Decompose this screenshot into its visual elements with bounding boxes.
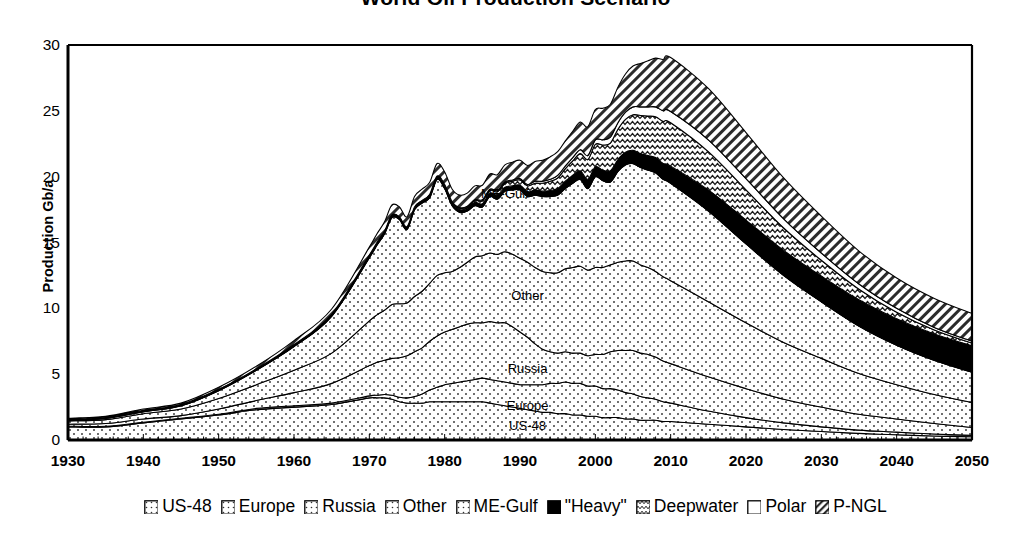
inline-label-europe: Europe: [507, 398, 549, 413]
legend-item-russia[interactable]: Russia: [304, 498, 376, 516]
legend-item-me-gulf[interactable]: ME-Gulf: [456, 498, 538, 516]
inline-label-me-gulf: ME-Gulf: [481, 186, 529, 201]
legend-swatch-white-icon: [747, 500, 761, 514]
legend-swatch-solid-black-icon: [547, 500, 561, 514]
x-axis-tick: 1960: [254, 452, 334, 470]
legend-item-deepwater[interactable]: Deepwater: [636, 498, 739, 516]
x-axis-tick: 2020: [706, 452, 786, 470]
x-axis-tick: 2010: [631, 452, 711, 470]
x-axis-tick: 2040: [857, 452, 937, 470]
legend-swatch-dots-icon: [456, 500, 470, 514]
x-axis-tick: 1970: [329, 452, 409, 470]
inline-label-russia: Russia: [508, 361, 549, 376]
legend-label: Other: [403, 498, 447, 516]
x-axis-tick: 1950: [179, 452, 259, 470]
x-axis-tick: 2050: [932, 452, 1012, 470]
inline-label-us-48: US-48: [509, 418, 546, 433]
legend-item-p-ngl[interactable]: P-NGL: [815, 498, 886, 516]
legend-item-other[interactable]: Other: [385, 498, 447, 516]
legend-label: Polar: [765, 498, 806, 516]
legend-item-europe[interactable]: Europe: [221, 498, 295, 516]
legend-swatch-dots-icon: [221, 500, 235, 514]
legend-item-polar[interactable]: Polar: [747, 498, 806, 516]
x-axis-tick: 1990: [480, 452, 560, 470]
chart-legend: US-48EuropeRussiaOtherME-Gulf"Heavy"Deep…: [0, 498, 1031, 516]
legend-item-us-48[interactable]: US-48: [144, 498, 212, 516]
legend-label: ME-Gulf: [474, 498, 538, 516]
legend-label: US-48: [162, 498, 212, 516]
x-axis-tick: 1930: [28, 452, 108, 470]
legend-label: Russia: [322, 498, 376, 516]
legend-label: "Heavy": [565, 498, 627, 516]
legend-label: P-NGL: [833, 498, 886, 516]
legend-label: Europe: [239, 498, 295, 516]
inline-label-other: Other: [511, 288, 544, 303]
legend-swatch-diagonal-hatch-icon: [815, 500, 829, 514]
x-axis-tick: 1980: [405, 452, 485, 470]
legend-swatch-wavy-icon: [636, 500, 650, 514]
x-axis-tick: 2000: [555, 452, 635, 470]
legend-swatch-dots-icon: [304, 500, 318, 514]
x-axis-tick: 1940: [103, 452, 183, 470]
legend-item-heavy[interactable]: "Heavy": [547, 498, 627, 516]
legend-label: Deepwater: [654, 498, 739, 516]
legend-swatch-dots-icon: [144, 500, 158, 514]
x-axis-tick: 2030: [781, 452, 861, 470]
chart-container: World Oil Production Scenario Production…: [0, 0, 1031, 545]
legend-swatch-dots-icon: [385, 500, 399, 514]
